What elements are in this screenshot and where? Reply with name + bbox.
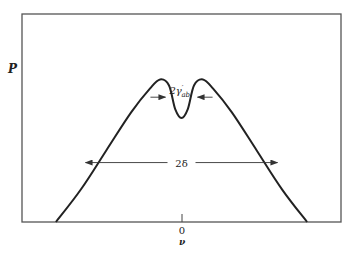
x-axis-label: ν <box>179 237 186 247</box>
y-axis-label: P <box>7 62 18 76</box>
x-tick-label-zero: 0 <box>179 225 185 236</box>
figure: 2δ2γ′ab P 0 ν <box>0 0 354 255</box>
line-profile-curve <box>56 79 307 222</box>
two-delta-label: 2δ <box>175 158 187 169</box>
